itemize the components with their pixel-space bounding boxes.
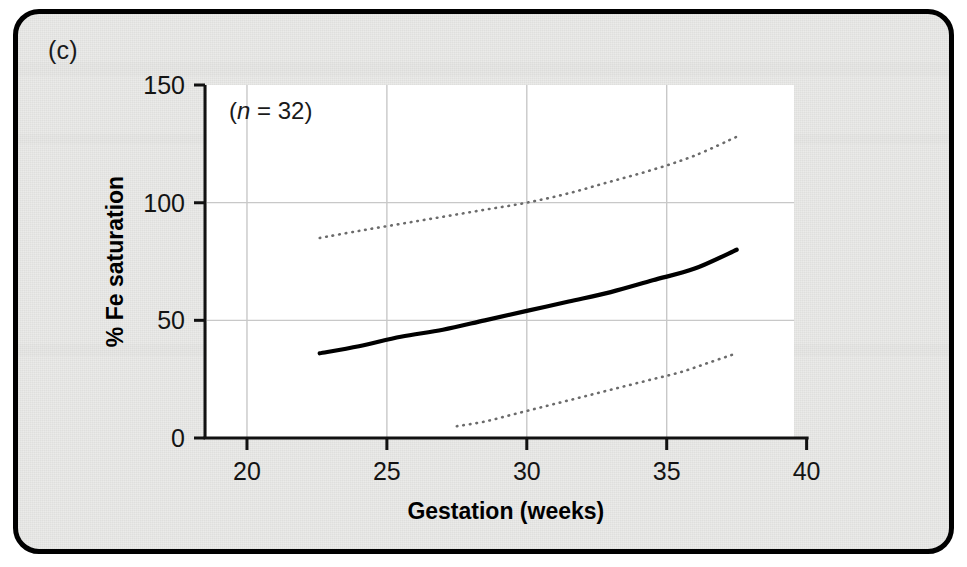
annot-symbol: n [237, 97, 250, 124]
x-tick-label-30: 30 [513, 457, 541, 485]
figure-root: (c) 0501001502025303540Gestation (weeks)… [0, 0, 967, 567]
y-tick-label-100: 100 [143, 189, 185, 217]
chart-area: 0501001502025303540Gestation (weeks)% Fe… [18, 14, 949, 549]
plot-background-group [207, 85, 794, 438]
figure-frame: (c) 0501001502025303540Gestation (weeks)… [13, 9, 954, 554]
annot-equals: = [250, 97, 277, 124]
sample-size-annotation: (n = 32) [229, 97, 312, 124]
x-tick-label-25: 25 [373, 457, 401, 485]
plot-background [207, 85, 794, 438]
annot-prefix: ( [229, 97, 237, 124]
y-tick-label-50: 50 [157, 306, 185, 334]
x-tick-label-40: 40 [793, 457, 821, 485]
annot-suffix: ) [304, 97, 312, 124]
x-axis-title: Gestation (weeks) [407, 498, 604, 524]
x-tick-label-35: 35 [653, 457, 681, 485]
y-tick-label-0: 0 [171, 424, 185, 452]
y-axis-title: % Fe saturation [102, 176, 128, 347]
annot-value: 32 [278, 97, 305, 124]
x-tick-label-20: 20 [233, 457, 261, 485]
y-tick-label-150: 150 [143, 71, 185, 99]
line-chart: 0501001502025303540Gestation (weeks)% Fe… [18, 14, 949, 549]
